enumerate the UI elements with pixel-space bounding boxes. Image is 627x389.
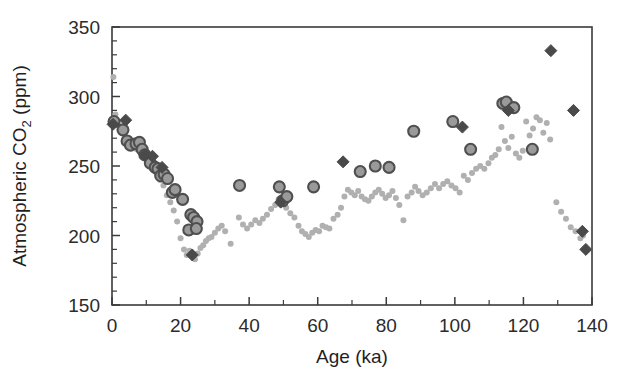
data-point-circle bbox=[447, 116, 458, 127]
data-point-dot bbox=[341, 194, 347, 200]
data-point-dot bbox=[236, 214, 242, 220]
data-point-diamond bbox=[545, 45, 557, 57]
data-point-dot bbox=[568, 224, 574, 230]
data-point-dot bbox=[110, 74, 116, 80]
plot-border bbox=[112, 27, 592, 305]
data-point-dot bbox=[335, 212, 341, 218]
data-point-circle bbox=[234, 180, 245, 191]
data-point-dot bbox=[502, 138, 508, 144]
y-axis-title-rotated: Atmospheric CO2 (ppm) bbox=[9, 65, 34, 267]
data-point-circle bbox=[370, 161, 381, 172]
plot-frame bbox=[112, 27, 592, 305]
y-tick-label: 200 bbox=[68, 226, 100, 247]
data-point-dot bbox=[492, 152, 498, 158]
data-point-circle bbox=[177, 194, 188, 205]
series-marine-diamonds bbox=[107, 45, 592, 261]
data-point-dot bbox=[509, 134, 515, 140]
data-point-dot bbox=[544, 120, 550, 126]
data-point-dot bbox=[553, 199, 559, 205]
data-point-dot bbox=[530, 125, 536, 131]
x-axis-title: Age (ka) bbox=[316, 346, 388, 367]
y-tick-label: 150 bbox=[68, 295, 100, 316]
x-tick-label: 140 bbox=[576, 315, 608, 336]
data-point-dot bbox=[219, 223, 225, 229]
data-point-dot bbox=[520, 148, 526, 154]
data-point-dot bbox=[540, 130, 546, 136]
y-tick-label: 250 bbox=[68, 156, 100, 177]
data-point-circle bbox=[191, 223, 202, 234]
data-point-circle bbox=[527, 144, 538, 155]
data-point-circle bbox=[117, 124, 128, 135]
x-tick-label: 100 bbox=[439, 315, 471, 336]
data-point-diamond bbox=[580, 243, 592, 255]
x-axis-title-text: Age (ka) bbox=[316, 346, 388, 367]
y-axis-title: Atmospheric CO2 (ppm) bbox=[9, 65, 34, 267]
data-point-circle bbox=[465, 144, 476, 155]
data-point-dot bbox=[264, 212, 270, 218]
x-tick-label: 40 bbox=[239, 315, 260, 336]
data-point-circle bbox=[170, 184, 181, 195]
data-point-dot bbox=[505, 145, 511, 151]
data-point-dot bbox=[222, 228, 228, 234]
chart-canvas: Atmospheric CO2 (ppm) Age (ka) 150200250… bbox=[0, 0, 627, 389]
y-axis-title-text: Atmospheric CO2 (ppm) bbox=[9, 65, 34, 267]
x-tick-label: 0 bbox=[107, 315, 118, 336]
data-point-dot bbox=[181, 246, 187, 252]
data-point-dot bbox=[563, 216, 569, 222]
data-point-diamond bbox=[567, 104, 579, 116]
x-tick-label: 20 bbox=[170, 315, 191, 336]
data-point-dot bbox=[174, 219, 180, 225]
data-point-diamond bbox=[337, 156, 349, 168]
x-axis-ticks: 020406080100120140 bbox=[107, 297, 608, 336]
data-point-circle bbox=[384, 162, 395, 173]
data-point-dot bbox=[496, 146, 502, 152]
data-point-dot bbox=[516, 155, 522, 161]
x-tick-label: 120 bbox=[508, 315, 540, 336]
data-point-dot bbox=[171, 207, 177, 213]
data-point-circle bbox=[274, 181, 285, 192]
data-point-dot bbox=[228, 241, 234, 247]
data-point-circle bbox=[162, 173, 173, 184]
data-point-dot bbox=[326, 226, 332, 232]
data-point-dot bbox=[457, 189, 463, 195]
data-point-dot bbox=[389, 188, 395, 194]
data-point-dot bbox=[167, 199, 173, 205]
data-point-circle bbox=[408, 126, 419, 137]
data-point-dot bbox=[396, 202, 402, 208]
data-point-dot bbox=[485, 160, 491, 166]
data-point-dot bbox=[558, 209, 564, 215]
y-tick-label: 350 bbox=[68, 17, 100, 38]
data-point-dot bbox=[291, 214, 297, 220]
data-point-circle bbox=[308, 181, 319, 192]
data-point-circle bbox=[355, 166, 366, 177]
data-point-dot bbox=[465, 177, 471, 183]
data-point-dot bbox=[409, 189, 415, 195]
data-point-dot bbox=[527, 132, 533, 138]
data-point-dot bbox=[178, 235, 184, 241]
data-point-dot bbox=[481, 166, 487, 172]
data-point-dot bbox=[537, 117, 543, 123]
x-tick-label: 60 bbox=[307, 315, 328, 336]
data-point-dot bbox=[296, 223, 302, 229]
x-tick-label: 80 bbox=[376, 315, 397, 336]
data-point-dot bbox=[547, 137, 553, 143]
data-point-dot bbox=[523, 119, 529, 125]
data-point-dot bbox=[400, 217, 406, 223]
data-point-dot bbox=[355, 188, 361, 194]
co2-scatter-figure: Atmospheric CO2 (ppm) Age (ka) 150200250… bbox=[0, 0, 627, 389]
data-point-diamond bbox=[576, 225, 588, 237]
series-proxy-circles bbox=[109, 97, 538, 236]
data-point-dot bbox=[316, 228, 322, 234]
y-tick-label: 300 bbox=[68, 87, 100, 108]
data-point-dot bbox=[338, 205, 344, 211]
data-point-dot bbox=[393, 195, 399, 201]
data-point-dot bbox=[498, 124, 504, 130]
